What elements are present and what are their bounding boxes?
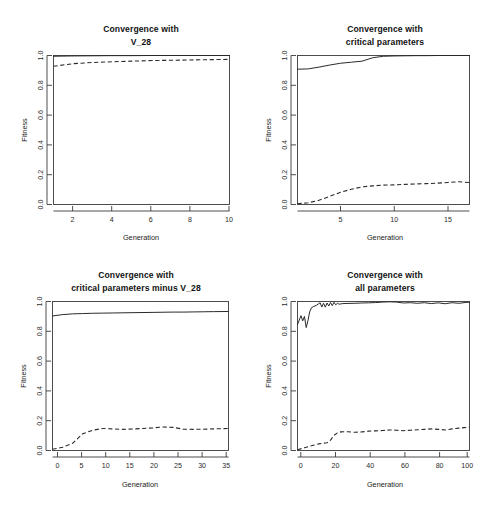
chart-title-line1: Convergence with bbox=[103, 24, 179, 34]
x-tick-label: 40 bbox=[366, 462, 374, 470]
y-tick-label: 0.2 bbox=[36, 416, 44, 426]
y-axis-label: Fitness bbox=[264, 364, 273, 388]
series-line-solid bbox=[54, 56, 230, 57]
x-axis-label: Generation bbox=[367, 480, 403, 489]
x-tick-label: 8 bbox=[188, 216, 192, 224]
series-line-dashed bbox=[54, 59, 230, 66]
series-line-dashed bbox=[298, 427, 470, 450]
chart-title-line1: Convergence with bbox=[347, 24, 423, 34]
y-tickmarks bbox=[47, 56, 52, 205]
x-tick-label: 2 bbox=[71, 216, 75, 224]
x-tickmarks bbox=[73, 206, 229, 211]
y-tickmarks bbox=[291, 302, 296, 451]
y-tick-label: 1.0 bbox=[36, 297, 44, 307]
x-tick-label: 10 bbox=[225, 216, 233, 224]
y-tick-label: 0.2 bbox=[281, 416, 289, 426]
x-tick-label: 0 bbox=[56, 462, 60, 470]
x-tick-label: 15 bbox=[444, 216, 452, 224]
plot-box bbox=[53, 302, 229, 451]
series-line-dashed bbox=[298, 182, 470, 204]
y-axis-label: Fitness bbox=[264, 118, 273, 142]
x-tick-label: 100 bbox=[461, 462, 473, 470]
y-tickmarks bbox=[46, 302, 51, 451]
series-line-dashed bbox=[53, 427, 229, 449]
chart-panel-critical-minus-v28: Convergence with critical parameters min… bbox=[0, 254, 249, 508]
convergence-figure: Convergence with V_28 0.0 0.2 0.4 0.6 bbox=[0, 0, 497, 508]
series-line-solid bbox=[298, 302, 470, 328]
y-tick-label: 0.0 bbox=[37, 200, 45, 210]
x-tick-label: 5 bbox=[80, 462, 84, 470]
y-tick-label: 0.8 bbox=[281, 326, 289, 336]
x-tick-label: 4 bbox=[110, 216, 114, 224]
y-tick-label: 0.6 bbox=[37, 110, 45, 120]
y-tick-label: 0.6 bbox=[281, 110, 289, 120]
x-tick-label: 5 bbox=[339, 216, 343, 224]
x-axis-label: Generation bbox=[123, 233, 159, 242]
y-tick-label: 1.0 bbox=[37, 51, 45, 61]
chart-svg-all-parameters: Convergence with all parameters 0.0 0.2 … bbox=[249, 254, 497, 508]
chart-panel-v28: Convergence with V_28 0.0 0.2 0.4 0.6 bbox=[0, 0, 249, 254]
x-axis-group: 5 10 15 Generation bbox=[298, 206, 470, 242]
y-tick-label: 0.2 bbox=[281, 170, 289, 180]
chart-title-line2: V_28 bbox=[131, 37, 152, 47]
x-tick-label: 6 bbox=[149, 216, 153, 224]
x-tick-label: 0 bbox=[299, 462, 303, 470]
plot-box bbox=[298, 302, 470, 451]
chart-panel-critical: Convergence with critical parameters 0.0… bbox=[249, 0, 497, 254]
title-group: Convergence with V_28 bbox=[103, 24, 179, 47]
chart-svg-v28: Convergence with V_28 0.0 0.2 0.4 0.6 bbox=[0, 0, 249, 254]
x-tick-label: 20 bbox=[150, 462, 158, 470]
chart-svg-critical: Convergence with critical parameters 0.0… bbox=[249, 0, 497, 254]
x-axis-group: 2 4 6 8 10 Generation bbox=[54, 206, 233, 242]
y-tick-label: 0.4 bbox=[281, 386, 289, 396]
x-axis-label: Generation bbox=[367, 233, 403, 242]
x-tick-label: 35 bbox=[222, 462, 230, 470]
y-tick-label: 0.2 bbox=[37, 170, 45, 180]
series-line-solid bbox=[298, 56, 470, 70]
x-tickmarks bbox=[341, 206, 449, 211]
y-tick-label: 1.0 bbox=[281, 297, 289, 307]
x-axis-label: Generation bbox=[122, 480, 158, 489]
x-tick-label: 20 bbox=[332, 462, 340, 470]
chart-panel-all-parameters: Convergence with all parameters 0.0 0.2 … bbox=[249, 254, 497, 508]
plot-box bbox=[54, 56, 230, 205]
chart-svg-critical-minus-v28: Convergence with critical parameters min… bbox=[0, 254, 249, 508]
chart-title-line1: Convergence with bbox=[347, 270, 423, 280]
chart-title-line2: all parameters bbox=[355, 283, 415, 293]
title-group: Convergence with critical parameters min… bbox=[71, 270, 201, 293]
y-axis-group: 0.0 0.2 0.4 0.6 0.8 1.0 Fitness bbox=[264, 51, 296, 210]
chart-title-line2: critical parameters bbox=[346, 37, 424, 47]
y-axis-group: 0.0 0.2 0.4 0.6 0.8 1.0 Fitness bbox=[19, 297, 51, 456]
y-tick-label: 0.0 bbox=[281, 446, 289, 456]
y-tick-label: 0.8 bbox=[37, 80, 45, 90]
x-tick-label: 10 bbox=[390, 216, 398, 224]
chart-title-line2: critical parameters minus V_28 bbox=[71, 283, 201, 293]
y-tick-label: 0.0 bbox=[36, 446, 44, 456]
y-tick-label: 0.4 bbox=[36, 386, 44, 396]
x-axis-group: 0 5 10 15 20 25 30 35 Generation bbox=[53, 452, 231, 489]
title-group: Convergence with critical parameters bbox=[346, 24, 424, 47]
y-tick-label: 0.8 bbox=[281, 80, 289, 90]
x-tick-label: 15 bbox=[126, 462, 134, 470]
y-axis-group: 0.0 0.2 0.4 0.6 0.8 1.0 Fitness bbox=[20, 51, 52, 210]
y-tick-label: 0.8 bbox=[36, 326, 44, 336]
y-tick-label: 0.6 bbox=[281, 356, 289, 366]
x-tick-label: 30 bbox=[198, 462, 206, 470]
chart-title-line1: Convergence with bbox=[98, 270, 174, 280]
x-tick-label: 10 bbox=[102, 462, 110, 470]
x-tick-label: 60 bbox=[401, 462, 409, 470]
x-tickmarks bbox=[58, 452, 227, 457]
y-axis-group: 0.0 0.2 0.4 0.6 0.8 1.0 Fitness bbox=[264, 297, 296, 456]
plot-box bbox=[298, 56, 470, 205]
series-line-solid bbox=[53, 311, 229, 315]
y-tick-label: 0.0 bbox=[281, 200, 289, 210]
x-tick-label: 80 bbox=[436, 462, 444, 470]
y-axis-label: Fitness bbox=[20, 118, 29, 142]
y-tick-label: 0.6 bbox=[36, 356, 44, 366]
y-tick-label: 1.0 bbox=[281, 51, 289, 61]
title-group: Convergence with all parameters bbox=[347, 270, 423, 293]
x-tick-label: 25 bbox=[174, 462, 182, 470]
y-tick-label: 0.4 bbox=[281, 140, 289, 150]
x-tickmarks bbox=[301, 452, 467, 457]
y-axis-label: Fitness bbox=[19, 364, 28, 388]
